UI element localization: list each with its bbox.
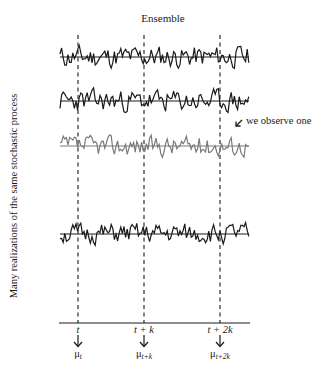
series-2 [60, 88, 249, 113]
time-label: t [77, 324, 81, 335]
time-label: t + 2k [207, 324, 233, 335]
series-3 [60, 135, 249, 158]
down-arrow-icon [216, 335, 224, 347]
y-axis-label: Many realizations of the same stochastic… [8, 94, 19, 299]
time-label: t + k [134, 324, 154, 335]
observe-annotation: we observe one [236, 115, 312, 126]
time-marker-dashed-lines [78, 35, 220, 323]
mean-label: μt+k [136, 348, 153, 361]
time-marker-3: t + 2kμt+2k [207, 324, 233, 361]
mean-label: μt [74, 348, 83, 361]
time-marker-2: t + kμt+k [134, 324, 154, 361]
realization-series-group [60, 45, 249, 245]
annotation-arrow-icon [236, 120, 242, 126]
realization-path [60, 88, 249, 113]
time-marker-1: tμt [74, 324, 83, 361]
series-1 [60, 45, 249, 68]
diagram-svg: Ensemble Many realizations of the same s… [0, 0, 327, 376]
series-4 [60, 223, 249, 246]
annotation-text: we observe one [246, 115, 312, 126]
down-arrow-icon [140, 335, 148, 347]
diagram-title: Ensemble [141, 12, 184, 24]
down-arrow-icon [74, 335, 82, 347]
ensemble-diagram: Ensemble Many realizations of the same s… [0, 0, 327, 376]
time-marker-labels: tμtt + kμt+kt + 2kμt+2k [74, 324, 233, 361]
mean-label: μt+2k [210, 348, 231, 361]
